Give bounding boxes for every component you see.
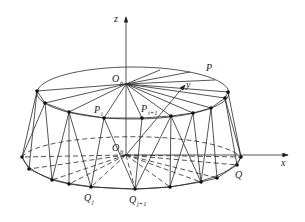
side-triangle-edge xyxy=(22,91,37,157)
bottom-fan-edge xyxy=(126,155,170,187)
side-triangle-edge xyxy=(170,116,171,187)
side-triangle-edge xyxy=(211,108,217,178)
pi1-label-sub: i+1 xyxy=(148,109,157,116)
op-label: O xyxy=(112,73,119,84)
bottom-vertex-point xyxy=(199,180,203,184)
side-triangle-edge xyxy=(135,116,171,189)
top-polygon-edge xyxy=(45,103,69,112)
pi-label: P xyxy=(93,104,100,115)
top-polygon-edge xyxy=(211,98,225,108)
side-triangle-edge xyxy=(22,103,45,157)
top-vertex-point xyxy=(223,96,227,100)
top-fan-edge xyxy=(126,70,160,84)
x-axis-label: x xyxy=(280,157,286,168)
qj1-label: Q xyxy=(129,194,137,205)
top-vertex-point xyxy=(209,106,213,110)
top-vertex-point xyxy=(140,116,144,120)
side-triangle-edge xyxy=(225,98,241,157)
top-fan-edge xyxy=(126,80,215,84)
bottom-vertex-point xyxy=(133,187,137,191)
bottom-polygon-edge xyxy=(22,157,29,169)
triangle-mesh xyxy=(22,70,241,189)
ob-label: O xyxy=(112,142,119,153)
bottom-curve-visible xyxy=(22,157,241,189)
bottom-polygon-edge xyxy=(170,182,201,187)
side-triangle-edge xyxy=(135,118,142,189)
side-triangle-edge xyxy=(171,116,201,182)
side-triangle-edge xyxy=(201,108,211,182)
top-fan-edge xyxy=(126,84,142,118)
side-triangle-edge xyxy=(52,112,69,180)
q-curve-label: Q xyxy=(235,169,243,180)
top-polygon-edge xyxy=(193,108,211,113)
y-axis-label: y xyxy=(185,79,191,90)
top-vertex-point xyxy=(67,110,71,114)
side-triangle-edge xyxy=(69,112,91,187)
bottom-vertex-point xyxy=(168,185,172,189)
bottom-fan-edge xyxy=(52,155,126,180)
bottom-polygon-edge xyxy=(91,187,135,189)
bottom-fan-edge xyxy=(126,155,237,165)
top-vertex-point xyxy=(191,111,195,115)
bottom-vertex-point xyxy=(50,178,54,182)
top-vertex-point xyxy=(35,89,39,93)
bottom-fan-edge xyxy=(22,155,126,157)
top-vertex-point xyxy=(226,90,230,94)
qj-label-sub: j xyxy=(91,198,94,205)
bottom-polygon-edge xyxy=(217,165,237,178)
bottom-vertex-point xyxy=(215,176,219,180)
qj-label: Q xyxy=(84,192,92,203)
side-triangle-edge xyxy=(170,113,193,187)
bottom-vertex-point xyxy=(89,185,93,189)
loft-diagram: z x y O p O b P Q P i P i+1 Q j Q j+1 xyxy=(0,0,305,222)
z-axis-label: z xyxy=(113,13,118,24)
ob-label-sub: b xyxy=(120,148,124,155)
bottom-vertex-point xyxy=(67,182,71,186)
qj1-label-sub: j+1 xyxy=(136,200,146,207)
bottom-polygon-edge xyxy=(29,169,52,180)
bottom-curve-hidden xyxy=(22,137,241,157)
p-curve-label: P xyxy=(205,62,212,73)
mesh-points xyxy=(20,89,243,191)
bottom-vertex-point xyxy=(235,163,239,167)
pi-label-sub: i xyxy=(101,110,103,117)
y-axis xyxy=(126,85,185,155)
bottom-vertex-point xyxy=(20,155,24,159)
bottom-vertex-point xyxy=(27,167,31,171)
bottom-polygon-edge xyxy=(69,184,91,187)
top-vertex-point xyxy=(43,101,47,105)
bottom-polygon-edge xyxy=(52,180,69,184)
top-vertex-point xyxy=(169,114,173,118)
side-triangle-edge xyxy=(193,113,201,182)
bottom-vertex-point xyxy=(239,155,243,159)
diagram-canvas: z x y O p O b P Q P i P i+1 Q j Q j+1 xyxy=(0,0,305,222)
side-triangle-edge xyxy=(45,103,52,180)
pi1-label: P xyxy=(140,103,147,114)
side-triangle-edge xyxy=(29,91,37,169)
